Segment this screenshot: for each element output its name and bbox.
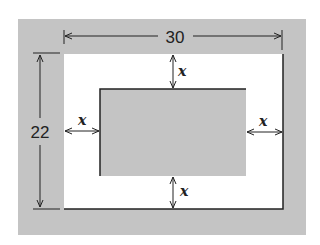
right-margin-label: x xyxy=(258,113,268,129)
top-margin-label: x xyxy=(177,63,187,79)
width-label: 30 xyxy=(166,28,185,47)
diagram: 30 22 x x x x xyxy=(0,0,320,245)
inner-rectangle xyxy=(100,89,246,176)
height-label: 22 xyxy=(31,123,50,142)
left-margin-label: x xyxy=(77,112,87,128)
bottom-margin-label: x xyxy=(179,183,189,199)
